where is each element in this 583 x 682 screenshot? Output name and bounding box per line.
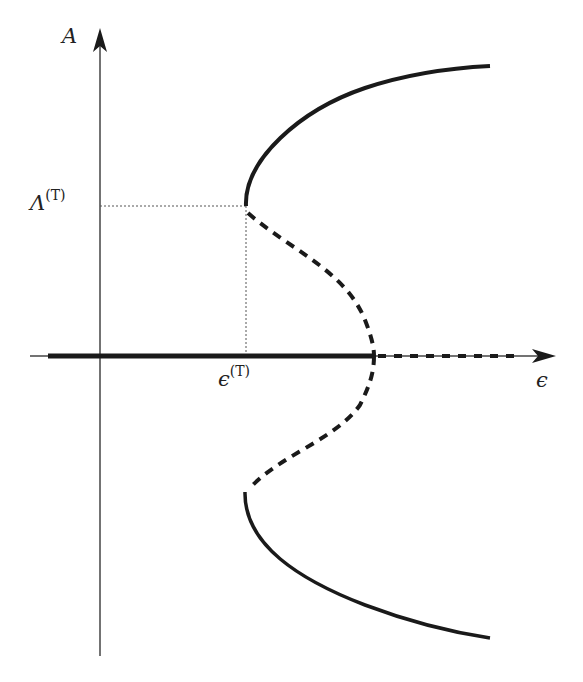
x-tick-label: ϵ(T) [218, 366, 250, 390]
branch-upper-stable [246, 66, 490, 206]
branch-lower-unstable [250, 356, 374, 488]
branch-upper-unstable [248, 213, 374, 356]
y-tick-label: Λ(T) [30, 190, 65, 214]
x-axis-label: ϵ [536, 370, 548, 391]
bifurcation-diagram [0, 0, 583, 682]
branch-lower-stable [245, 492, 490, 638]
y-axis-label: A [62, 26, 77, 47]
